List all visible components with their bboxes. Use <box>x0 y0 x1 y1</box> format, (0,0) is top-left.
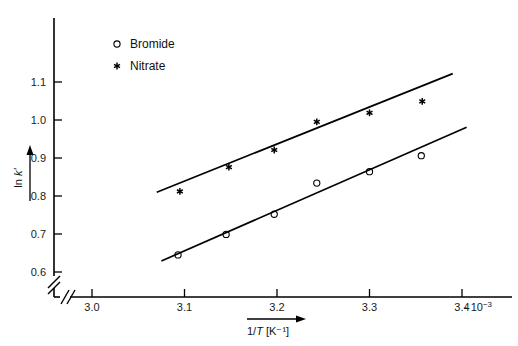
x-tick-label: 3.3 <box>362 301 377 313</box>
data-point-marker-asterisk <box>177 188 183 195</box>
data-point-marker-open-circle <box>314 180 320 186</box>
legend-item: Nitrate <box>114 59 166 73</box>
y-axis-title-group: ln k' <box>12 145 34 201</box>
y-axis-title-italic: k' <box>12 167 24 176</box>
legend-item-label: Nitrate <box>130 59 166 73</box>
x-axis-arrow-head <box>296 316 306 323</box>
data-point-marker-asterisk <box>271 147 277 154</box>
y-tick-label: 1.0 <box>31 114 46 126</box>
data-point-marker-asterisk <box>114 63 120 70</box>
y-axis-title-prefix: ln <box>12 176 24 188</box>
series-data-points <box>175 98 425 258</box>
x-axis-multiplier: · 10−3 <box>464 300 493 313</box>
chart-figure: 0.60.70.80.91.01.1 3.03.13.23.33.4 Bromi… <box>0 0 518 346</box>
y-tick-label: 1.1 <box>31 76 46 88</box>
series-points-group <box>175 153 424 258</box>
data-point-marker-asterisk <box>314 119 320 126</box>
y-axis-arrow-head <box>27 145 34 155</box>
data-point-marker-open-circle <box>114 41 120 47</box>
data-point-marker-asterisk <box>367 109 373 116</box>
y-tick-label: 0.6 <box>31 266 46 278</box>
y-tick-label: 0.7 <box>31 228 46 240</box>
x-axis-multiplier-power: −3 <box>483 300 493 309</box>
x-tick-label: 3.2 <box>269 301 284 313</box>
x-axis-title: 1/T [K⁻¹] <box>247 325 289 337</box>
x-axis-multiplier-base: 10 <box>471 301 483 313</box>
axis-lines <box>54 18 512 297</box>
data-point-marker-asterisk <box>419 98 425 105</box>
legend-item: Bromide <box>114 37 175 51</box>
y-tick-label: 0.8 <box>31 190 46 202</box>
data-point-marker-open-circle <box>418 153 424 159</box>
x-axis-ticks <box>92 289 462 297</box>
x-axis-title-group: 1/T [K⁻¹] <box>247 316 306 338</box>
y-axis-tick-labels: 0.60.70.80.91.01.1 <box>31 76 46 278</box>
arrhenius-plot-svg: 0.60.70.80.91.01.1 3.03.13.23.33.4 Bromi… <box>0 0 518 346</box>
x-axis-title-unit: [K⁻¹] <box>266 325 289 337</box>
y-axis-break-slash-1 <box>48 276 60 288</box>
axis-break-marks <box>48 276 75 304</box>
series-fit-line <box>161 127 466 261</box>
y-axis-ticks <box>54 82 62 272</box>
x-tick-label: 3.0 <box>84 301 99 313</box>
y-axis-title: ln k' <box>12 167 24 187</box>
series-fit-line <box>157 74 453 193</box>
x-axis-tick-labels: 3.03.13.23.33.4 <box>84 301 469 313</box>
legend-item-label: Bromide <box>130 37 175 51</box>
x-tick-label: 3.1 <box>177 301 192 313</box>
legend: BromideNitrate <box>114 37 175 73</box>
series-points-group <box>177 98 425 195</box>
